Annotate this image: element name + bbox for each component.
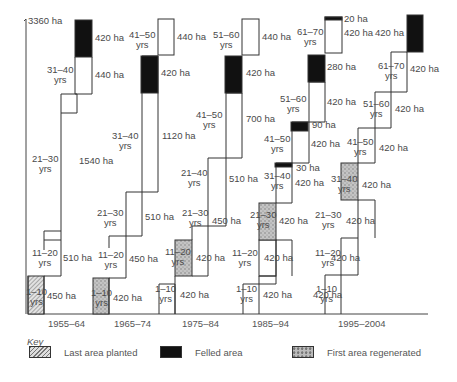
area-label: 420 ha [331, 253, 360, 263]
column-1975-84 [159, 19, 259, 314]
area-label: 420 ha [295, 178, 324, 188]
age-label: 1–10yrs [91, 288, 112, 308]
area-label: 420 ha [344, 28, 373, 38]
area-label: 90 ha [312, 120, 336, 130]
age-label: 41–50yrs [264, 134, 290, 154]
age-label: 51–60yrs [280, 94, 306, 114]
felled-block [325, 17, 342, 20]
area-label: 420 ha [311, 139, 340, 149]
felled-block [141, 56, 158, 93]
black-swatch-icon [160, 346, 182, 358]
area-label: 420 ha [327, 97, 356, 107]
age-label: 1–10yrs [155, 284, 176, 304]
age-label: 21–30yrs [182, 208, 208, 228]
area-label: 420 ha [395, 104, 424, 114]
area-label: 510 ha [229, 174, 258, 184]
area-label: 450 ha [212, 216, 241, 226]
age-label: 41–50yrs [129, 30, 155, 50]
area-label: 440 ha [95, 70, 124, 80]
period-label: 1995–2004 [338, 318, 386, 329]
area-label: 420 ha [313, 290, 342, 300]
age-label: 61–70yrs [378, 61, 404, 81]
felled-block [291, 122, 308, 131]
area-label: 420 ha [410, 64, 439, 74]
area-label: 1540 ha [79, 156, 113, 166]
area-label: 510 ha [63, 253, 92, 263]
area-label: 420 ha [95, 33, 124, 43]
area-label: 30 ha [296, 163, 320, 173]
age-label: 31–40yrs [331, 174, 357, 194]
area-label: 440 ha [262, 32, 291, 42]
age-label: 41–50yrs [196, 110, 222, 130]
hatched-swatch-icon [29, 346, 51, 358]
age-label: 51–60yrs [213, 30, 239, 50]
area-label: 700 ha [246, 114, 275, 124]
age-label: 21–30yrs [97, 208, 123, 228]
area-label: 510 ha [145, 212, 174, 222]
age-label: 21–30yrs [250, 210, 276, 230]
area-label: 420 ha [375, 28, 404, 38]
period-label: 1965–74 [114, 318, 151, 329]
area-label: 420 ha [196, 253, 225, 263]
area-label: 420 ha [379, 143, 408, 153]
area-label: 420 ha [279, 216, 308, 226]
key-item-felled: Felled area [160, 345, 243, 359]
area-label: 450 ha [129, 254, 158, 264]
age-label: 11–20yrs [232, 248, 258, 268]
area-label: 420 ha [263, 290, 292, 300]
age-label: 31–40yrs [112, 131, 138, 151]
area-label: 20 ha [344, 14, 368, 24]
key-item-regenerated: First area regenerated [292, 345, 421, 359]
stippled-swatch-icon [292, 346, 314, 358]
age-label: 1–10yrs [26, 287, 47, 307]
total-area-label: 3360 ha [28, 16, 62, 26]
area-label: 440 ha [177, 32, 206, 42]
age-label: 31–40yrs [264, 171, 290, 191]
age-label: 21–30yrs [315, 210, 341, 230]
area-label: 420 ha [362, 180, 391, 190]
age-label: 11–20yrs [98, 250, 124, 270]
felled-block [407, 15, 423, 52]
area-label: 420 ha [161, 68, 190, 78]
area-label: 280 ha [327, 62, 356, 72]
age-label: 61–70yrs [297, 27, 323, 47]
age-label: 51–60yrs [363, 99, 389, 119]
age-label: 41–50yrs [347, 137, 373, 157]
area-label: 420 ha [264, 253, 293, 263]
period-label: 1985–94 [252, 318, 289, 329]
key-item-planted: Last area planted [29, 345, 137, 359]
age-label: 21–30yrs [32, 154, 58, 174]
area-label: 420 ha [180, 290, 209, 300]
period-label: 1955–64 [48, 318, 85, 329]
area-label: 420 ha [246, 68, 275, 78]
age-label: 31–40yrs [47, 65, 73, 85]
period-label: 1975–84 [182, 318, 219, 329]
age-label: 11–20yrs [165, 247, 191, 267]
felled-block [225, 56, 242, 93]
column-1995-2004 [325, 15, 423, 314]
felled-block [275, 163, 292, 167]
area-label: 420 ha [346, 216, 375, 226]
felled-block [308, 55, 325, 82]
felled-block [75, 20, 92, 57]
total-bracket [24, 19, 26, 314]
age-label: 21–40yrs [181, 168, 207, 188]
area-label: 450 ha [47, 291, 76, 301]
area-label: 1120 ha [162, 131, 196, 141]
age-label: 11–20yrs [32, 248, 58, 268]
area-label: 420 ha [113, 293, 142, 303]
age-label: 1–10yrs [236, 284, 257, 304]
